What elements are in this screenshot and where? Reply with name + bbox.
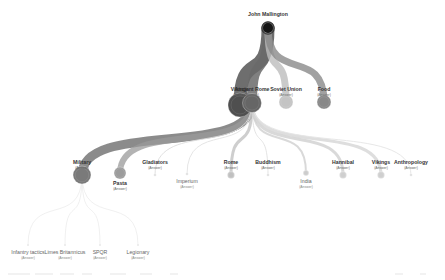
label-rome[interactable]: Rome(Answer)	[224, 160, 238, 170]
label-military[interactable]: Military(Answer)	[73, 160, 91, 170]
label-food[interactable]: Food(Answer)	[317, 87, 331, 97]
node-status: (Answer)	[372, 167, 390, 170]
node-name: Anthropology	[394, 160, 428, 165]
label-hannibal[interactable]: Hannibal(Answer)	[332, 160, 354, 170]
tree-links	[28, 28, 411, 245]
link-military-to-limes_britannicus	[65, 175, 82, 245]
node-status: (Answer)	[235, 94, 270, 97]
node-status: (Answer)	[127, 257, 150, 260]
node-name: Rome	[224, 160, 238, 165]
node-limes_britannicus[interactable]	[64, 244, 66, 246]
faint-bottom-row-decoration	[0, 270, 445, 280]
node-name: Buddhism	[255, 160, 280, 165]
node-status: (Answer)	[73, 167, 91, 170]
node-status: (Answer)	[224, 167, 238, 170]
label-india[interactable]: India(Answer)	[299, 179, 313, 189]
label-legionary[interactable]: Legionary(Answer)	[127, 250, 150, 260]
node-root[interactable]	[263, 23, 273, 33]
node-name: Ancient Rome	[235, 87, 270, 92]
node-status: (Answer)	[270, 94, 302, 97]
label-limes_britannicus[interactable]: Limes Britannicus(Answer)	[45, 250, 86, 260]
node-status: (Answer)	[299, 186, 313, 189]
node-name: India	[299, 179, 313, 184]
node-status: (Answer)	[142, 167, 168, 170]
node-status: (Answer)	[394, 167, 428, 170]
node-name: Soviet Union	[270, 87, 302, 92]
node-buddhism[interactable]	[267, 174, 270, 177]
label-infantry_tactics[interactable]: Infantry tactics(Answer)	[11, 250, 44, 260]
node-status: (Answer)	[11, 257, 44, 260]
node-name: John Mallington	[248, 12, 288, 17]
tree-diagram	[0, 0, 445, 280]
label-imperium[interactable]: Imperium(Answer)	[176, 179, 198, 189]
node-name: Limes Britannicus	[45, 250, 86, 255]
node-name: Gladiators	[142, 160, 168, 165]
node-pasta[interactable]	[114, 167, 126, 179]
label-soviet_union[interactable]: Soviet Union(Answer)	[270, 87, 302, 97]
label-root[interactable]: John Mallington	[248, 12, 288, 17]
node-name: SPQR	[93, 250, 108, 255]
node-anthropology[interactable]	[410, 174, 413, 177]
node-status: (Answer)	[93, 257, 108, 260]
node-legionary[interactable]	[137, 244, 139, 246]
node-status: (Answer)	[255, 167, 280, 170]
node-name: Imperium	[176, 179, 198, 184]
node-gladiators[interactable]	[154, 174, 157, 177]
label-spqr[interactable]: SPQR(Answer)	[93, 250, 108, 260]
link-military-to-spqr	[82, 175, 100, 245]
node-status: (Answer)	[113, 188, 127, 191]
label-anthropology[interactable]: Anthropology(Answer)	[394, 160, 428, 170]
node-name: Vikings	[372, 160, 390, 165]
node-name: Military	[73, 160, 91, 165]
node-name: Legionary	[127, 250, 150, 255]
label-buddhism[interactable]: Buddhism(Answer)	[255, 160, 280, 170]
node-spqr[interactable]	[99, 244, 101, 246]
link-military-to-legionary	[82, 175, 138, 245]
node-status: (Answer)	[176, 186, 198, 189]
label-vikings_l2[interactable]: Vikings(Answer)	[372, 160, 390, 170]
node-name: Hannibal	[332, 160, 354, 165]
node-status: (Answer)	[45, 257, 86, 260]
node-name: Food	[317, 87, 331, 92]
node-status: (Answer)	[317, 94, 331, 97]
node-infantry_tactics[interactable]	[27, 244, 29, 246]
node-name: Infantry tactics	[11, 250, 44, 255]
label-pasta[interactable]: Pasta(Answer)	[113, 181, 127, 191]
node-status: (Answer)	[332, 167, 354, 170]
label-gladiators[interactable]: Gladiators(Answer)	[142, 160, 168, 170]
node-name: Pasta	[113, 181, 127, 186]
node-imperium[interactable]	[186, 173, 189, 176]
label-ancient_rome[interactable]: Ancient Rome(Answer)	[235, 87, 270, 97]
